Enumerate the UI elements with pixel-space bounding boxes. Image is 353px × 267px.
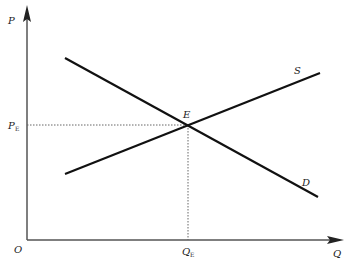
demand-curve	[65, 58, 318, 197]
origin-label: O	[14, 244, 22, 255]
equilibrium-quantity-subscript: E	[190, 251, 194, 258]
supply-demand-diagram: P Q O S D E P E Q E	[0, 0, 353, 267]
x-axis-label: Q	[333, 248, 341, 259]
supply-curve	[65, 73, 320, 174]
equilibrium-quantity-label: Q	[182, 246, 190, 257]
diagram-canvas: P Q O S D E P E Q E	[0, 0, 353, 267]
equilibrium-price-label: P	[7, 120, 15, 131]
equilibrium-price-subscript: E	[15, 125, 19, 132]
equilibrium-label: E	[182, 109, 191, 120]
supply-label: S	[294, 65, 301, 76]
y-axis-label: P	[7, 15, 15, 26]
demand-label: D	[301, 177, 310, 188]
